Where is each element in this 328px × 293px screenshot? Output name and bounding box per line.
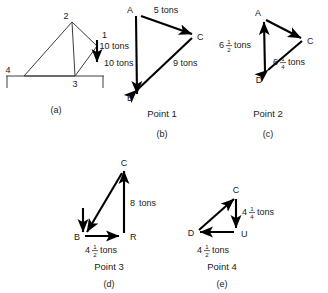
panel-c-point-label: Point 2: [253, 108, 283, 119]
polygon-d-label-bottom-whole: 4: [85, 245, 90, 255]
panel-d-force-polygon: C B R 8 tons 4 1 2 tons Point 3 (d): [74, 158, 157, 289]
polygon-d-label-bottom-unit: tons: [100, 245, 118, 255]
truss-member-4-2: [24, 22, 72, 76]
polygon-c-label-left-numerator: 1: [227, 39, 231, 45]
truss-node-label-3: 3: [72, 79, 77, 89]
polygon-c-label-left-denominator: 2: [227, 47, 231, 53]
polygon-e-label-bottom-denominator: 2: [205, 252, 209, 258]
truss-member-3-1: [75, 46, 97, 76]
polygon-d-label-right-unit: tons: [139, 198, 157, 208]
polygon-d-label-bottom-numerator: 1: [93, 244, 97, 250]
truss-member-2-3: [72, 22, 75, 76]
polygon-d-label-bottom-denominator: 2: [93, 252, 97, 258]
panel-a-truss-diagram: 2 1 3 4 10 tons (a): [5, 11, 134, 115]
vector-d-c-to-b: [87, 173, 122, 232]
polygon-c-label-right-unit: tons: [288, 57, 306, 67]
polygon-b-node-a: A: [127, 5, 133, 15]
polygon-b-label-ac: 5 tons: [154, 5, 179, 15]
polygon-b-node-c: C: [197, 32, 204, 42]
polygon-e-label-right-numerator: 1: [250, 206, 254, 212]
polygon-e-node-d: D: [188, 228, 195, 238]
polygon-e-node-c: C: [233, 185, 240, 195]
polygon-e-label-right-unit: tons: [257, 207, 275, 217]
polygon-b-label-ab: 10 tons: [99, 41, 129, 51]
panel-b-force-polygon: A C B 5 tons 9 tons 10 tons Point 1 (b): [99, 5, 204, 139]
polygon-c-node-a: A: [255, 8, 261, 18]
vector-c-a-to-c: [266, 20, 301, 38]
panel-c-force-polygon: A C D 6 1 2 tons 6 1 4 tons Point 2 (c): [219, 8, 314, 139]
polygon-e-node-u: U: [241, 229, 248, 239]
polygon-c-label-left-whole: 6: [219, 40, 224, 50]
polygon-b-node-b: B: [127, 93, 133, 103]
vector-a-to-b: [136, 16, 137, 94]
truss-node-label-1: 1: [102, 30, 107, 40]
polygon-e-label-bottom-numerator: 1: [205, 244, 209, 250]
polygon-e-label-bottom: 4 1 2 tons: [197, 244, 230, 258]
polygon-e-label-bottom-unit: tons: [212, 245, 230, 255]
polygon-c-node-d: D: [256, 75, 263, 85]
panel-d-caption: (d): [104, 279, 115, 289]
panel-b-point-label: Point 1: [147, 108, 177, 119]
truss-member-2-1: [72, 22, 97, 46]
polygon-e-label-right-denominator: 4: [250, 214, 254, 220]
polygon-d-label-right: 8 tons: [130, 198, 157, 208]
truss-node-label-4: 4: [5, 65, 10, 75]
figure-canvas: 2 1 3 4 10 tons (a) A C B 5 tons 9 tons …: [0, 0, 328, 293]
polygon-c-label-right-denominator: 4: [281, 64, 285, 70]
polygon-e-label-right: 4 1 4 tons: [242, 206, 275, 220]
polygon-d-node-r: R: [130, 232, 137, 242]
vector-e-d-to-c: [199, 199, 234, 230]
polygon-d-node-b: B: [74, 232, 80, 242]
panel-e-point-label: Point 4: [207, 261, 237, 272]
polygon-c-label-right-whole: 6: [273, 57, 278, 67]
polygon-d-label-right-whole: 8: [130, 198, 135, 208]
polygon-d-label-bottom: 4 1 2 tons: [85, 244, 118, 258]
polygon-b-label-cb: 9 tons: [173, 58, 198, 68]
vector-c-d-to-a: [264, 22, 265, 72]
polygon-e-label-bottom-whole: 4: [197, 245, 202, 255]
polygon-d-node-c: C: [121, 158, 128, 168]
panel-b-caption: (b): [157, 129, 168, 139]
panel-d-point-label: Point 3: [94, 261, 124, 272]
polygon-c-label-right: 6 1 4 tons: [273, 56, 306, 70]
panel-e-force-polygon: C D U 4 1 4 tons 4 1 2 tons Point 4 (e): [188, 185, 275, 289]
vector-a-to-c: [141, 16, 192, 34]
polygon-c-label-left: 6 1 2 tons: [219, 39, 252, 53]
panel-a-caption: (a): [51, 105, 62, 115]
polygon-c-node-c: C: [307, 36, 314, 46]
truss-load-label: 10 tons: [104, 58, 134, 68]
panel-c-caption: (c): [263, 129, 274, 139]
polygon-c-label-left-unit: tons: [234, 40, 252, 50]
truss-node-label-2: 2: [63, 11, 68, 21]
polygon-e-label-right-whole: 4: [242, 207, 247, 217]
panel-e-caption: (e): [217, 279, 228, 289]
